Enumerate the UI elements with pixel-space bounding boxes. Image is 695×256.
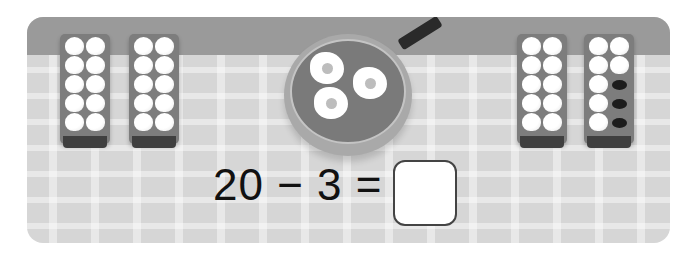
egg-icon [155,56,174,74]
empty-slot-icon [612,80,627,90]
egg-icon [86,113,105,131]
egg-icon [543,56,562,74]
egg-icon [155,113,174,131]
egg-icon [543,113,562,131]
egg-icon [134,75,153,93]
egg-tray-3 [517,34,567,144]
answer-box[interactable] [393,160,457,226]
egg-icon [65,75,84,93]
egg-tray-4 [584,34,634,144]
egg-icon [86,56,105,74]
egg-icon [589,56,608,74]
egg-icon [543,75,562,93]
tray-base [132,136,176,148]
frying-pan [284,34,412,156]
tray-base [520,136,564,148]
fried-egg-icon [355,69,385,97]
egg-icon [65,113,84,131]
egg-icon [134,113,153,131]
egg-icon [543,37,562,55]
tray-base [587,136,631,148]
egg-icon [589,94,608,112]
egg-icon [65,94,84,112]
egg-icon [589,113,608,131]
tray-base [63,136,107,148]
fried-egg-icon [312,54,342,82]
egg-icon [134,37,153,55]
egg-icon [543,94,562,112]
pan-inner [290,39,406,144]
egg-icon [86,94,105,112]
equation-text: 20 − 3 = [213,160,382,210]
egg-icon [86,75,105,93]
egg-icon [155,94,174,112]
egg-icon [522,75,541,93]
egg-icon [134,94,153,112]
egg-icon [589,37,608,55]
egg-icon [155,75,174,93]
egg-icon [522,56,541,74]
egg-icon [522,37,541,55]
egg-tray-1 [60,34,110,144]
egg-icon [65,56,84,74]
egg-icon [65,37,84,55]
egg-icon [155,37,174,55]
egg-tray-2 [129,34,179,144]
egg-icon [589,75,608,93]
empty-slot-icon [612,99,627,109]
fried-egg-icon [316,89,346,117]
egg-icon [610,56,629,74]
egg-icon [610,37,629,55]
egg-icon [522,94,541,112]
egg-icon [134,56,153,74]
egg-icon [86,37,105,55]
egg-icon [522,113,541,131]
empty-slot-icon [612,118,627,128]
